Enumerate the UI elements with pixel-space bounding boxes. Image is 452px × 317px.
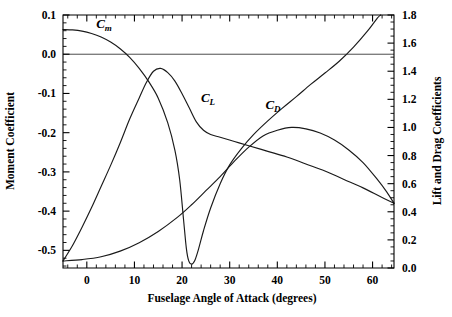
x-axis-title: Fuselage Angle of Attack (degrees)	[147, 292, 316, 305]
x-tick-label: 10	[129, 274, 141, 286]
y2-tick-label: 0.0	[402, 262, 417, 274]
y-tick-label: -0.5	[38, 244, 56, 256]
y-axis-left-title: Moment Coefficient	[4, 92, 16, 190]
x-tick-label: 50	[319, 274, 331, 286]
x-tick-label: 0	[84, 274, 90, 286]
y2-tick-label: 0.8	[402, 150, 417, 162]
y-tick-label: 0.0	[42, 48, 57, 60]
y2-tick-label: 1.4	[402, 65, 417, 77]
chart-figure: 0102030405060 0.10.0-0.1-0.2-0.3-0.4-0.5…	[0, 0, 452, 317]
y2-tick-label: 0.2	[402, 234, 417, 246]
y2-tick-label: 1.8	[402, 9, 417, 21]
chart-background	[0, 0, 452, 317]
y-tick-label: -0.4	[38, 205, 56, 217]
y2-tick-label: 1.0	[402, 121, 417, 133]
x-tick-label: 40	[272, 274, 284, 286]
y-tick-label: 0.1	[42, 9, 57, 21]
y2-tick-label: 0.4	[402, 206, 417, 218]
y-tick-label: -0.2	[38, 127, 56, 139]
x-tick-label: 60	[367, 274, 379, 286]
y-axis-right-title: Lift and Drag Coefficients	[431, 76, 444, 205]
y2-tick-label: 0.6	[402, 178, 417, 190]
curve-label-sub-CL: L	[209, 97, 216, 107]
coefficients-line-chart: 0102030405060 0.10.0-0.1-0.2-0.3-0.4-0.5…	[0, 0, 452, 317]
y2-tick-label: 1.2	[402, 93, 417, 105]
x-tick-label: 30	[224, 274, 236, 286]
x-tick-label: 20	[176, 274, 188, 286]
y-tick-label: -0.1	[38, 87, 56, 99]
curve-label-sub-CD: D	[273, 104, 281, 114]
curve-label-sub-Cm: m	[105, 23, 112, 33]
y2-tick-label: 1.6	[402, 37, 417, 49]
y-tick-label: -0.3	[38, 166, 56, 178]
